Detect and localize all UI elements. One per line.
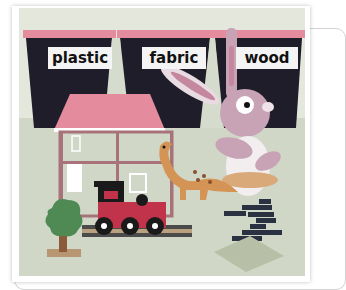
bin-label-wood: wood bbox=[236, 47, 298, 69]
illustration-card: plastic fabric wood bbox=[12, 6, 310, 282]
bin-label-plastic: plastic bbox=[48, 47, 112, 69]
bin-label-fabric: fabric bbox=[142, 47, 206, 69]
